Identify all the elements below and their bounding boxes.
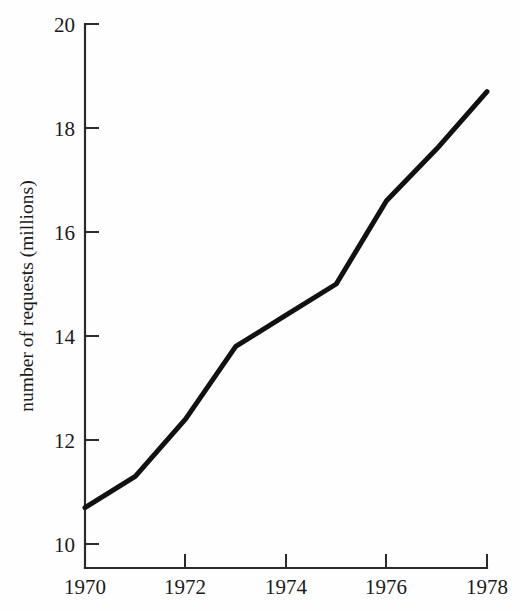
- x-tick-label-1972: 1972: [164, 575, 206, 599]
- x-tick-label-1976: 1976: [365, 575, 407, 599]
- x-tick-label-1978: 1978: [466, 575, 508, 599]
- y-tick-label-10: 10: [54, 533, 75, 557]
- y-tick-label-14: 14: [54, 325, 76, 349]
- x-tick-label-1974: 1974: [265, 575, 308, 599]
- chart-canvas: 20 18 16 14 12 10 1970 1972 1974 1976 19…: [0, 0, 520, 611]
- y-tick-label-12: 12: [54, 429, 75, 453]
- line-chart-figure: 20 18 16 14 12 10 1970 1972 1974 1976 19…: [0, 0, 520, 611]
- y-axis-title: number of requests (millions): [16, 180, 38, 411]
- x-tick-label-1970: 1970: [64, 575, 106, 599]
- y-tick-label-16: 16: [54, 221, 75, 245]
- y-tick-label-18: 18: [54, 117, 75, 141]
- data-series-line: [85, 92, 487, 508]
- y-tick-label-20: 20: [54, 13, 75, 37]
